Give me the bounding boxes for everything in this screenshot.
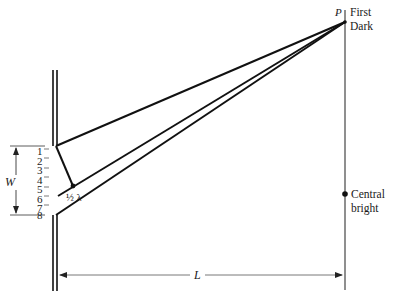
width-label: W bbox=[5, 175, 16, 189]
first-dark-label-line1: First bbox=[350, 6, 372, 18]
central-bright-label-line1: Central bbox=[351, 188, 385, 200]
distance-label: L bbox=[193, 268, 201, 282]
barrier-upper bbox=[53, 70, 57, 146]
point-p-label: P bbox=[334, 6, 342, 18]
source-label-8: 8 bbox=[37, 209, 43, 221]
first-dark-label-line2: Dark bbox=[350, 20, 373, 32]
path-difference-line bbox=[56, 146, 73, 186]
ray-middle bbox=[58, 22, 345, 196]
central-bright-dot bbox=[342, 191, 348, 197]
path-difference-dot bbox=[71, 184, 76, 189]
ray-top bbox=[56, 22, 345, 146]
point-p-dot bbox=[343, 20, 347, 24]
ray-bottom bbox=[56, 22, 345, 215]
source-ticks bbox=[44, 149, 49, 205]
barrier-lower bbox=[53, 215, 57, 291]
diffraction-diagram: 1 2 3 4 5 6 7 8 W L ½ λ P First Dark Cen… bbox=[0, 0, 393, 301]
path-difference-label: ½ λ bbox=[66, 192, 83, 203]
central-bright-label-line2: bright bbox=[351, 202, 379, 215]
